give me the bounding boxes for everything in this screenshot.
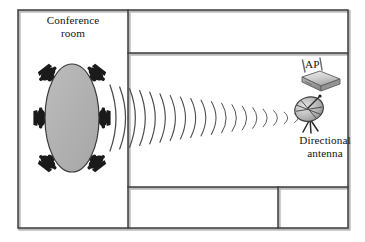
wave-arc: [253, 108, 257, 129]
label-conference-room: Conference room: [30, 14, 116, 39]
wave-arc: [110, 85, 116, 151]
wave-arc: [274, 111, 278, 126]
wave-arc: [242, 106, 246, 130]
antenna-feed-horn: [318, 94, 321, 97]
label-access-point: AP: [305, 58, 335, 71]
wave-arc: [150, 92, 155, 144]
wave-arc: [191, 99, 196, 138]
figure-canvas: Conference room AP Directional antenna: [0, 0, 365, 242]
wave-arc: [232, 105, 236, 132]
label-directional-antenna: Directional antenna: [288, 134, 362, 159]
conference-table: [45, 64, 99, 172]
wave-arc: [160, 94, 165, 142]
wave-arc: [180, 97, 185, 139]
wave-arc: [222, 103, 227, 133]
wave-arc: [263, 109, 267, 127]
wave-arc: [120, 87, 126, 149]
directional-antenna-icon: [292, 93, 327, 133]
wave-arc: [170, 95, 175, 140]
radio-wave-arcs: [110, 85, 309, 151]
wave-arc: [201, 100, 206, 136]
wave-arc: [211, 102, 216, 135]
wave-arc: [140, 90, 146, 145]
wave-arc: [284, 112, 288, 124]
